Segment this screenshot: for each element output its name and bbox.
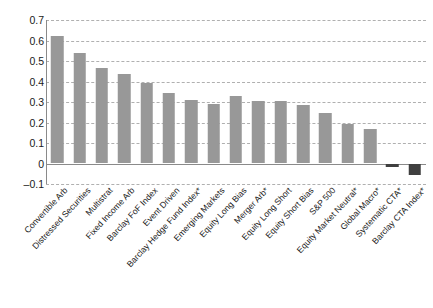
bar-slot xyxy=(46,20,68,184)
bar xyxy=(297,105,310,163)
bar xyxy=(96,68,109,163)
y-axis-tick-label: 0.6 xyxy=(29,35,44,46)
bar xyxy=(118,74,131,163)
bar-slot xyxy=(359,20,381,184)
bar-chart-figure: 0.70.60.50.40.30.20.10–0.1 Convertible A… xyxy=(0,0,433,308)
bar xyxy=(140,83,153,164)
y-axis-tick-label: 0.4 xyxy=(29,76,44,87)
bar-slot xyxy=(404,20,426,184)
y-axis-tick-label: 0.7 xyxy=(29,15,44,26)
bar xyxy=(386,164,399,167)
bar xyxy=(185,100,198,164)
bar-slot xyxy=(158,20,180,184)
bar-slot xyxy=(91,20,113,184)
bar xyxy=(73,53,86,164)
y-axis-tick-label: –0.1 xyxy=(24,179,44,190)
gridline xyxy=(46,184,426,185)
y-axis-tick-label: 0.3 xyxy=(29,97,44,108)
bar-slot xyxy=(247,20,269,184)
bar-slot xyxy=(68,20,90,184)
bar xyxy=(252,101,265,164)
bar-slot xyxy=(292,20,314,184)
bar xyxy=(342,124,355,164)
bar xyxy=(319,113,332,163)
bar xyxy=(163,93,176,164)
bar-slot xyxy=(314,20,336,184)
x-axis-category-labels: Convertible ArbDistressed SecuritiesMult… xyxy=(46,186,426,308)
y-axis-tick-label: 0 xyxy=(38,158,44,169)
y-axis-tick-label: 0.1 xyxy=(29,138,44,149)
bar xyxy=(230,96,243,164)
bar-slot xyxy=(270,20,292,184)
bar-slot xyxy=(180,20,202,184)
bar xyxy=(274,101,287,164)
bar-slot xyxy=(337,20,359,184)
bar xyxy=(51,36,64,163)
bar-slot xyxy=(225,20,247,184)
y-axis-tick-label: 0.2 xyxy=(29,117,44,128)
bar xyxy=(207,104,220,163)
bar-slot xyxy=(113,20,135,184)
bar-slot xyxy=(381,20,403,184)
bars-layer xyxy=(46,20,426,184)
bar xyxy=(364,129,377,164)
y-axis-tick-label: 0.5 xyxy=(29,56,44,67)
bar-slot xyxy=(135,20,157,184)
bar-slot xyxy=(202,20,224,184)
bar xyxy=(409,164,422,175)
